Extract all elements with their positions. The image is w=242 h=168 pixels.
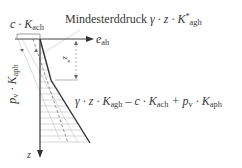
minimum-pressure-text: Mindesterddruck	[65, 12, 147, 26]
e-axis-label: eah	[96, 33, 109, 45]
z-star-sup: *	[65, 60, 72, 63]
formula-part-2: – c · K	[123, 94, 157, 108]
formula-sub-1: agh	[110, 100, 122, 109]
formula-sub-4: aph	[210, 100, 222, 109]
pv-sub: v	[11, 93, 20, 97]
cohesion-bracket	[17, 34, 40, 38]
z-axis-arrow	[37, 150, 43, 158]
formula-part-1: γ · z · K	[75, 94, 110, 108]
z-star-label: z*	[61, 56, 70, 63]
formula-part-3: + p	[168, 94, 188, 108]
z-axis-label: z	[27, 150, 31, 160]
cohesion-label-main: c · K	[10, 17, 32, 31]
surcharge-label: pv · Kaph	[6, 64, 18, 103]
minimum-pressure-label: Mindesterddruck γ · z · K*agh	[65, 13, 202, 25]
dashed-pressure-line	[33, 39, 68, 143]
formula-part-4: · K	[193, 94, 210, 108]
e-axis-arrow	[86, 36, 94, 42]
e-axis-label-sub: ah	[101, 38, 109, 47]
cohesion-label: c · Kach	[10, 18, 44, 30]
resultant-formula-label: γ · z · Kagh – c · Kach + pv · Kaph	[75, 95, 222, 107]
cohesion-label-sub: ach	[32, 23, 44, 32]
minimum-pressure-formula: γ · z · K	[150, 12, 185, 26]
minimum-pressure-sub: agh	[190, 18, 202, 27]
formula-sub-2: ach	[157, 100, 169, 109]
pv-main: p	[5, 98, 19, 104]
pressure-line	[40, 39, 90, 143]
pv-sub2: aph	[11, 64, 20, 76]
pv-mid: · K	[5, 76, 19, 93]
